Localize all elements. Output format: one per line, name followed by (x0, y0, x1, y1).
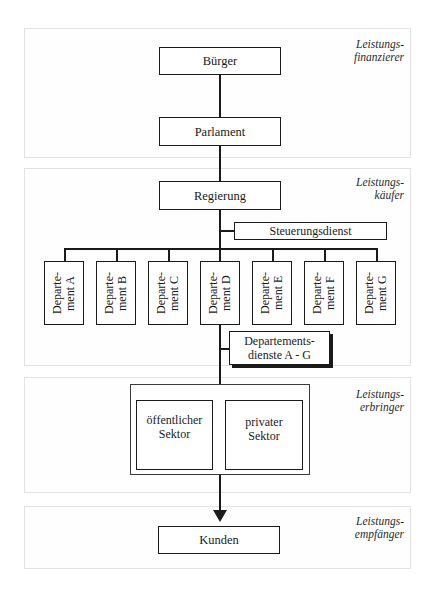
node-buerger: Bürger (159, 47, 281, 75)
node-kunden: Kunden (158, 526, 280, 554)
drop-dept-e (272, 248, 274, 261)
node-steuerungsdienst-label: Steuerungsdienst (270, 224, 352, 238)
connector-buerger-parlament (219, 75, 221, 117)
node-buerger-label: Bürger (203, 54, 238, 68)
department-d-label: Departe- ment D (207, 272, 233, 314)
node-parlament: Parlament (159, 117, 281, 146)
node-departementsdienste-label: Departements- dienste A - G (244, 334, 315, 362)
department-e-label: Departe- ment E (259, 272, 285, 314)
connector-steuerungsdienst (219, 230, 234, 232)
node-regierung: Regierung (159, 181, 281, 210)
connector-dept-d-down (219, 325, 221, 390)
node-department-g: Departe- ment G (356, 261, 396, 325)
department-c-label: Departe- ment C (155, 272, 181, 314)
department-a-label: Departe- ment A (51, 272, 77, 314)
node-department-e: Departe- ment E (252, 261, 292, 325)
node-department-c: Departe- ment C (148, 261, 188, 325)
node-departementsdienste: Departements- dienste A - G (229, 331, 330, 365)
node-parlament-label: Parlament (195, 125, 246, 139)
role-label-kaeufer: Leistungs- käufer (356, 176, 404, 202)
node-privater-sektor: privater Sektor (225, 400, 303, 470)
node-oeffentlicher-sektor: öffentlicher Sektor (136, 400, 213, 470)
node-department-b: Departe- ment B (96, 261, 136, 325)
node-department-a: Departe- ment A (44, 261, 84, 325)
connector-sektor-kunden (219, 475, 221, 515)
drop-dept-b (116, 248, 118, 261)
department-bus (64, 248, 376, 250)
connector-departementsdienste (219, 348, 229, 350)
node-department-f: Departe- ment F (304, 261, 344, 325)
connector-regierung-departments (219, 210, 221, 261)
drop-dept-c (168, 248, 170, 261)
connector-parlament-regierung (219, 146, 221, 183)
department-f-label: Departe- ment F (311, 272, 337, 314)
drop-dept-g (376, 248, 378, 261)
role-label-empfaenger: Leistungs- empfänger (355, 515, 404, 541)
node-kunden-label: Kunden (199, 533, 239, 547)
drop-dept-a (64, 248, 66, 261)
node-steuerungsdienst: Steuerungsdienst (234, 222, 387, 240)
department-b-label: Departe- ment B (103, 272, 129, 314)
node-department-d: Departe- ment D (200, 261, 240, 325)
arrow-down-icon (213, 510, 227, 522)
drop-dept-f (324, 248, 326, 261)
node-regierung-label: Regierung (194, 189, 246, 203)
role-label-erbringer: Leistungs- erbringer (356, 388, 404, 414)
role-label-finanzierer: Leistungs- finanzierer (354, 38, 404, 64)
node-oeffentlicher-sektor-label: öffentlicher Sektor (147, 413, 203, 441)
node-privater-sektor-label: privater Sektor (245, 415, 282, 443)
department-g-label: Departe- ment G (363, 272, 389, 314)
